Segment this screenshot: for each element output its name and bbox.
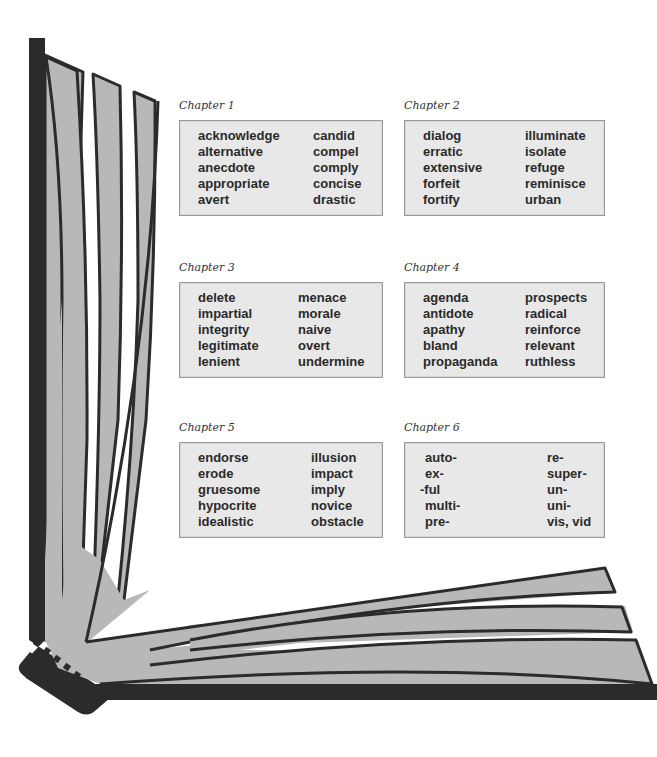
word-part: ex- bbox=[425, 466, 547, 482]
vocab-word: isolate bbox=[525, 144, 586, 160]
word-list-box: delete impartial integrity legitimate le… bbox=[179, 282, 383, 378]
chapter-title: Chapter 3 bbox=[179, 260, 383, 276]
vocab-word: agenda bbox=[423, 290, 525, 306]
word-column-right: illuminate isolate refuge reminisce urba… bbox=[525, 128, 586, 215]
word-list-box: agenda antidote apathy bland propaganda … bbox=[404, 282, 605, 378]
vocab-word: illuminate bbox=[525, 128, 586, 144]
vocab-word: fortify bbox=[423, 192, 525, 208]
chapter-title: Chapter 4 bbox=[404, 260, 605, 276]
vocab-word: avert bbox=[198, 192, 313, 208]
vocab-word: alternative bbox=[198, 144, 313, 160]
vocab-word: urban bbox=[525, 192, 586, 208]
chapter-3-card: Chapter 3 delete impartial integrity leg… bbox=[179, 260, 383, 378]
vocab-word: relevant bbox=[525, 338, 587, 354]
vocab-word: extensive bbox=[423, 160, 525, 176]
vocab-word: ruthless bbox=[525, 354, 587, 370]
chapter-title: Chapter 5 bbox=[179, 420, 383, 436]
vocab-word: prospects bbox=[525, 290, 587, 306]
vocab-word: impact bbox=[311, 466, 364, 482]
vocab-word: anecdote bbox=[198, 160, 313, 176]
word-column-left: dialog erratic extensive forfeit fortify bbox=[423, 128, 525, 215]
vocab-word: legitimate bbox=[198, 338, 298, 354]
vocab-word: compel bbox=[313, 144, 361, 160]
chapter-title: Chapter 2 bbox=[404, 98, 605, 114]
chapter-6-card: Chapter 6 auto- ex- -ful multi- pre- re-… bbox=[404, 420, 605, 538]
word-part: auto- bbox=[425, 450, 547, 466]
vocab-word: overt bbox=[298, 338, 364, 354]
word-column-left: acknowledge alternative anecdote appropr… bbox=[198, 128, 313, 215]
chapter-2-card: Chapter 2 dialog erratic extensive forfe… bbox=[404, 98, 605, 216]
vocab-word: apathy bbox=[423, 322, 525, 338]
word-column-right: menace morale naive overt undermine bbox=[298, 290, 364, 377]
vocab-word: candid bbox=[313, 128, 361, 144]
vocab-word: impartial bbox=[198, 306, 298, 322]
word-part: re- bbox=[547, 450, 591, 466]
vocab-word: reinforce bbox=[525, 322, 587, 338]
vocab-word: illusion bbox=[311, 450, 364, 466]
word-column-left: endorse erode gruesome hypocrite idealis… bbox=[198, 450, 311, 537]
vocab-word: bland bbox=[423, 338, 525, 354]
vocab-word: morale bbox=[298, 306, 364, 322]
word-list-box: endorse erode gruesome hypocrite idealis… bbox=[179, 442, 383, 538]
vocab-word: acknowledge bbox=[198, 128, 313, 144]
vocab-word: idealistic bbox=[198, 514, 311, 530]
word-column-right: prospects radical reinforce relevant rut… bbox=[525, 290, 587, 377]
word-part: multi- bbox=[425, 498, 547, 514]
vocab-word: integrity bbox=[198, 322, 298, 338]
word-column-left: agenda antidote apathy bland propaganda bbox=[423, 290, 525, 377]
word-list-box: dialog erratic extensive forfeit fortify… bbox=[404, 120, 605, 216]
word-list-box: acknowledge alternative anecdote appropr… bbox=[179, 120, 383, 216]
word-part: un- bbox=[547, 482, 591, 498]
word-column-left: auto- ex- -ful multi- pre- bbox=[423, 450, 547, 537]
chapter-title: Chapter 6 bbox=[404, 420, 605, 436]
word-part: vis, vid bbox=[547, 514, 591, 530]
vocab-word: imply bbox=[311, 482, 364, 498]
chapter-5-card: Chapter 5 endorse erode gruesome hypocri… bbox=[179, 420, 383, 538]
vocab-word: gruesome bbox=[198, 482, 311, 498]
vocab-word: propaganda bbox=[423, 354, 525, 370]
vocab-word: naive bbox=[298, 322, 364, 338]
chapter-1-card: Chapter 1 acknowledge alternative anecdo… bbox=[179, 98, 383, 216]
word-column-right: illusion impact imply novice obstacle bbox=[311, 450, 364, 537]
word-column-left: delete impartial integrity legitimate le… bbox=[198, 290, 298, 377]
vocab-word: forfeit bbox=[423, 176, 525, 192]
vocab-word: novice bbox=[311, 498, 364, 514]
vocab-word: appropriate bbox=[198, 176, 313, 192]
chapter-title: Chapter 1 bbox=[179, 98, 383, 114]
word-part: super- bbox=[547, 466, 591, 482]
vocab-word: refuge bbox=[525, 160, 586, 176]
vocab-word: antidote bbox=[423, 306, 525, 322]
word-part: uni- bbox=[547, 498, 591, 514]
word-column-right: candid compel comply concise drastic bbox=[313, 128, 361, 215]
book-bottom-cover bbox=[95, 684, 657, 700]
vocab-word: obstacle bbox=[311, 514, 364, 530]
vocab-word: lenient bbox=[198, 354, 298, 370]
word-part: -ful bbox=[420, 482, 547, 498]
book-left-cover bbox=[29, 38, 45, 638]
vocab-word: dialog bbox=[423, 128, 525, 144]
vocab-word: radical bbox=[525, 306, 587, 322]
word-list-box: auto- ex- -ful multi- pre- re- super- un… bbox=[404, 442, 605, 538]
vocab-word: erode bbox=[198, 466, 311, 482]
word-column-right: re- super- un- uni- vis, vid bbox=[547, 450, 591, 537]
vocab-word: concise bbox=[313, 176, 361, 192]
vocab-word: menace bbox=[298, 290, 364, 306]
vocab-word: undermine bbox=[298, 354, 364, 370]
vocab-word: comply bbox=[313, 160, 361, 176]
vocab-word: erratic bbox=[423, 144, 525, 160]
chapter-4-card: Chapter 4 agenda antidote apathy bland p… bbox=[404, 260, 605, 378]
vocab-word: hypocrite bbox=[198, 498, 311, 514]
vocab-word: endorse bbox=[198, 450, 311, 466]
vocab-word: drastic bbox=[313, 192, 361, 208]
vocab-word: delete bbox=[198, 290, 298, 306]
vocab-word: reminisce bbox=[525, 176, 586, 192]
word-part: pre- bbox=[425, 514, 547, 530]
